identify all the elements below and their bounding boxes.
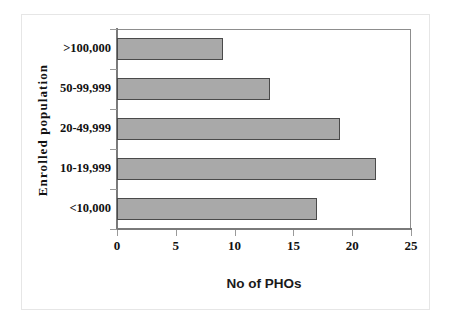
y-axis-tick-mark	[110, 109, 117, 110]
x-axis-tick-label: 10	[215, 238, 255, 254]
x-axis-tick-mark	[117, 230, 118, 236]
bar-<10,000	[117, 198, 317, 220]
x-axis-tick-label: 15	[273, 238, 313, 254]
x-axis-tick-mark	[411, 230, 412, 236]
bars-layer	[117, 29, 411, 229]
y-axis-tick-mark	[110, 149, 117, 150]
y-axis-tick-mark	[110, 69, 117, 70]
y-axis-tick-mark	[110, 29, 117, 30]
x-axis-tick-label: 20	[332, 238, 372, 254]
bar-chart-figure: <10,00010-19,99920-49,99950-99,999>100,0…	[0, 0, 452, 326]
bar-10-19,999	[117, 158, 376, 180]
x-axis-tick-mark	[352, 230, 353, 236]
x-axis-tick-label: 5	[156, 238, 196, 254]
x-axis-title: No of PHOs	[117, 276, 411, 291]
y-axis-tick-mark	[110, 229, 117, 230]
x-axis-tick-label: 0	[97, 238, 137, 254]
y-axis-tick-label: 10-19,999	[0, 161, 111, 176]
y-axis-title: Enrolled population	[35, 30, 51, 230]
x-axis-tick-label: 25	[391, 238, 431, 254]
bar->100,000	[117, 38, 223, 60]
x-axis-tick-mark	[293, 230, 294, 236]
y-axis-tick-label: <10,000	[0, 201, 111, 216]
y-axis-tick-mark	[110, 189, 117, 190]
y-axis-tick-label: 20-49,999	[0, 121, 111, 136]
x-axis-tick-mark	[235, 230, 236, 236]
bar-50-99,999	[117, 78, 270, 100]
y-axis-tick-label: 50-99,999	[0, 81, 111, 96]
x-axis-tick-mark	[176, 230, 177, 236]
y-axis-tick-label: >100,000	[0, 41, 111, 56]
bar-20-49,999	[117, 118, 340, 140]
